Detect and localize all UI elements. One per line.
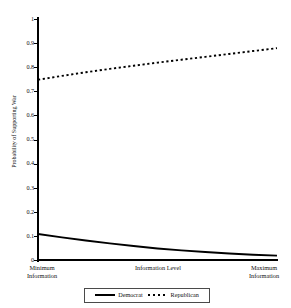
y-axis-ticks: 10.90.80.70.60.50.40.30.20.10	[0, 0, 34, 308]
legend-label-republican: Republican	[171, 292, 199, 298]
y-tick-label: 0.7	[2, 88, 34, 94]
series-line-democrat	[38, 234, 277, 256]
x-axis-label-minimum: Minimum Information	[14, 264, 70, 279]
chart-legend: Democrat Republican	[84, 288, 210, 303]
y-tick-label: 0.5	[2, 136, 34, 142]
legend-item-republican: Republican	[148, 292, 199, 298]
x-axis-label-maximum-line1: Maximum	[236, 264, 291, 272]
x-axis-label-minimum-line2: Information	[14, 272, 70, 280]
plot-area	[38, 19, 277, 260]
y-tick-label: 0	[2, 257, 34, 263]
chart-figure: Probability of Supporting War 10.90.80.7…	[0, 0, 291, 308]
legend-item-democrat: Democrat	[95, 292, 142, 298]
y-tick-label: 0.8	[2, 64, 34, 70]
legend-swatch-dotted-line-icon	[148, 294, 168, 296]
legend-swatch-solid-line-icon	[95, 294, 115, 296]
series-svg	[38, 19, 277, 260]
y-tick-label: 0.6	[2, 112, 34, 118]
y-tick-label: 0.4	[2, 160, 34, 166]
x-axis-title: Information Level	[122, 264, 194, 272]
x-axis-label-minimum-line1: Minimum	[14, 264, 70, 272]
y-tick-label: 1	[2, 16, 34, 22]
series-line-republican	[38, 48, 277, 80]
x-axis-label-maximum-line2: Information	[236, 272, 291, 280]
y-tick-label: 0.3	[2, 185, 34, 191]
y-tick-label: 0.2	[2, 209, 34, 215]
y-tick-label: 0.1	[2, 233, 34, 239]
x-axis-label-maximum: Maximum Information	[236, 264, 291, 279]
y-tick-label: 0.9	[2, 40, 34, 46]
legend-label-democrat: Democrat	[118, 292, 142, 298]
